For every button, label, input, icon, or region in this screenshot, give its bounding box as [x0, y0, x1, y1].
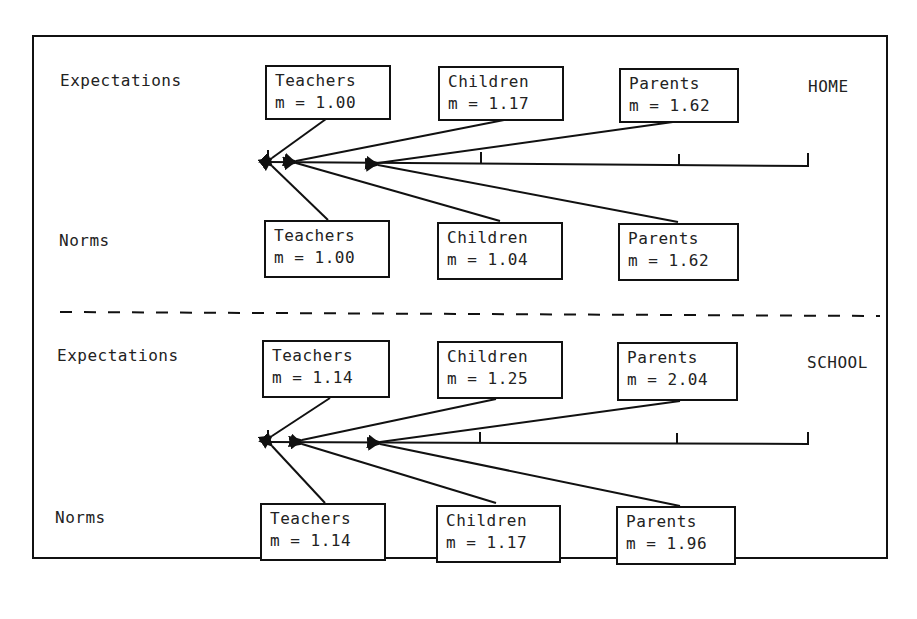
group-mean: m = 1.17	[446, 532, 551, 554]
group-mean: m = 1.96	[626, 533, 726, 555]
school-norm-teachers: Teachers m = 1.14	[260, 503, 386, 561]
group-mean: m = 1.00	[274, 247, 380, 269]
home-expectation-teachers: Teachers m = 1.00	[265, 65, 391, 120]
group-name: Children	[447, 227, 553, 249]
school-norm-children: Children m = 1.17	[436, 505, 561, 563]
group-mean: m = 1.62	[629, 95, 729, 117]
home-scale	[268, 150, 808, 167]
home-expectations-label: Expectations	[60, 71, 182, 90]
home-expectation-parents: Parents m = 1.62	[619, 68, 739, 123]
school-norm-parents: Parents m = 1.96	[616, 506, 736, 565]
group-name: Teachers	[275, 70, 381, 92]
group-mean: m = 1.25	[447, 368, 553, 390]
home-norm-children: Children m = 1.04	[437, 222, 563, 280]
group-mean: m = 1.62	[628, 250, 729, 272]
school-arrows	[272, 398, 680, 506]
group-mean: m = 1.17	[448, 93, 554, 115]
group-name: Parents	[627, 347, 728, 369]
home-arrows	[272, 119, 680, 222]
home-norm-parents: Parents m = 1.62	[618, 223, 739, 281]
group-name: Teachers	[272, 345, 380, 367]
group-name: Parents	[626, 511, 726, 533]
group-mean: m = 1.04	[447, 249, 553, 271]
group-mean: m = 1.00	[275, 92, 381, 114]
group-mean: m = 1.14	[272, 367, 380, 389]
group-name: Teachers	[274, 225, 380, 247]
group-name: Children	[446, 510, 551, 532]
group-name: Children	[447, 346, 553, 368]
school-expectation-children: Children m = 1.25	[437, 341, 563, 399]
home-context-label: HOME	[808, 77, 849, 96]
school-expectation-parents: Parents m = 2.04	[617, 342, 738, 401]
school-expectations-label: Expectations	[57, 346, 179, 365]
home-norm-teachers: Teachers m = 1.00	[264, 220, 390, 278]
home-expectation-children: Children m = 1.17	[438, 66, 564, 121]
group-name: Children	[448, 71, 554, 93]
home-norms-label: Norms	[59, 231, 110, 250]
school-norms-label: Norms	[55, 508, 106, 527]
group-mean: m = 1.14	[270, 530, 376, 552]
school-scale	[268, 430, 808, 445]
group-name: Teachers	[270, 508, 376, 530]
section-divider	[60, 312, 880, 316]
group-name: Parents	[628, 228, 729, 250]
group-name: Parents	[629, 73, 729, 95]
school-expectation-teachers: Teachers m = 1.14	[262, 340, 390, 398]
school-context-label: SCHOOL	[807, 353, 868, 372]
group-mean: m = 2.04	[627, 369, 728, 391]
